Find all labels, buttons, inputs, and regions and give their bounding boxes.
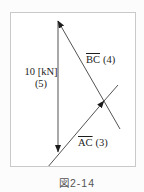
member-ac-name: AC <box>78 137 93 148</box>
member-ac-ratio: (3) <box>96 137 108 148</box>
member-bc-label: BC(4) <box>86 54 115 66</box>
member-ac-label: AC(3) <box>78 137 108 149</box>
member-bc-line <box>58 21 120 129</box>
member-ac-extension-line <box>104 85 118 101</box>
figure-caption: 図2-14 <box>10 175 144 190</box>
load-force-magnitude: 10 [kN] <box>19 66 63 78</box>
load-force-ratio: (5) <box>19 78 63 90</box>
member-ac-line <box>47 101 104 166</box>
member-bc-ratio: (4) <box>103 54 115 65</box>
figure-frame: 10 [kN] (5) BC(4) AC(3) <box>10 12 136 167</box>
load-force-label: 10 [kN] (5) <box>19 66 63 90</box>
page: { "figure_caption": "図2-14", "labels": {… <box>0 0 144 192</box>
member-bc-name: BC <box>86 54 100 65</box>
